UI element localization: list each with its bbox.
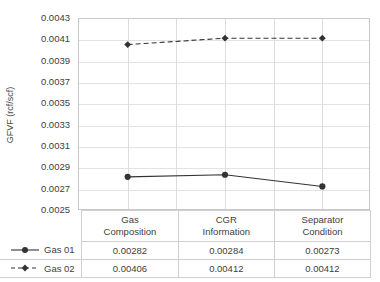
table-cell-value: 0.00412 <box>274 260 370 278</box>
column-header-line1: CGR <box>179 214 274 226</box>
gfvf-line-chart-figure: GFVF (rcf/scf) 0.00430.00410.00390.00370… <box>0 0 380 282</box>
legend-marker-icon <box>22 265 29 272</box>
table-cell-value: 0.00412 <box>178 260 274 278</box>
series-2 <box>124 35 325 48</box>
column-header-line2: Condition <box>275 226 370 238</box>
legend-dashed-line-icon <box>10 263 40 273</box>
data-table: GasCompositionCGRInformationSeparatorCon… <box>0 210 371 278</box>
y-axis-tick-label: 0.0035 <box>41 99 70 109</box>
table-cell-value: 0.00282 <box>82 242 178 260</box>
legend-marker-icon <box>22 247 28 253</box>
plot-area <box>78 18 370 210</box>
table-column-header: CGRInformation <box>178 211 274 242</box>
series-1 <box>125 172 326 190</box>
data-point-marker <box>124 41 131 48</box>
column-header-line1: Separator <box>275 214 370 226</box>
table-cell-value: 0.00284 <box>178 242 274 260</box>
data-point-marker <box>319 183 325 189</box>
table-header-corner <box>0 211 82 242</box>
table-row: Gas 010.002820.002840.00273 <box>0 242 371 260</box>
y-axis-tick-label: 0.0037 <box>41 77 70 87</box>
y-axis-tick-label: 0.0031 <box>41 141 70 151</box>
y-axis-tick-label: 0.0027 <box>41 184 70 194</box>
y-axis-tick-label: 0.0029 <box>41 163 70 173</box>
data-point-marker <box>125 174 131 180</box>
table-column-header: GasComposition <box>82 211 178 242</box>
legend-entry-2[interactable]: Gas 02 <box>0 260 82 278</box>
data-point-marker <box>222 172 228 178</box>
table-column-header: SeparatorCondition <box>274 211 370 242</box>
series-lines <box>79 19 370 210</box>
y-axis-tick-label: 0.0039 <box>41 56 70 66</box>
column-header-line2: Information <box>179 226 274 238</box>
y-axis-title: GFVF (rcf/scf) <box>0 60 20 170</box>
data-point-marker <box>319 35 326 42</box>
table-cell-value: 0.00406 <box>82 260 178 278</box>
table-row: Gas 020.004060.004120.00412 <box>0 260 371 278</box>
y-axis-title-text: GFVF (rcf/scf) <box>5 87 15 144</box>
data-point-marker <box>222 35 229 42</box>
legend-entry-1[interactable]: Gas 01 <box>0 242 82 260</box>
y-axis-tick-label: 0.0041 <box>41 35 70 45</box>
legend-label: Gas 02 <box>44 263 75 275</box>
table-cell-value: 0.00273 <box>274 242 370 260</box>
y-axis-tick-labels: 0.00430.00410.00390.00370.00350.00330.00… <box>26 18 74 210</box>
y-axis-tick-label: 0.0043 <box>41 13 70 23</box>
column-header-line1: Gas <box>82 214 177 226</box>
legend-solid-line-icon <box>10 245 40 255</box>
legend-label: Gas 01 <box>44 244 75 256</box>
y-axis-tick-label: 0.0033 <box>41 120 70 130</box>
column-header-line2: Composition <box>82 226 177 238</box>
table-header-row: GasCompositionCGRInformationSeparatorCon… <box>0 211 371 242</box>
